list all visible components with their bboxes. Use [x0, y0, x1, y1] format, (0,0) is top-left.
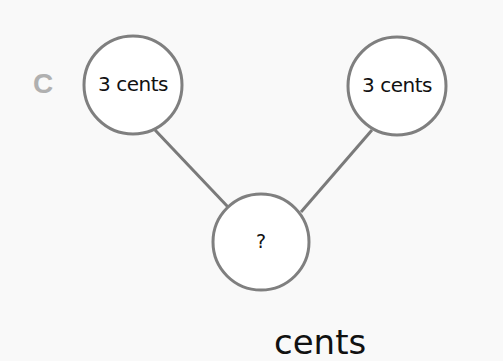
- problem-label: C: [33, 68, 53, 100]
- answer-unit-label: cents: [274, 322, 366, 361]
- node-top-right-text: 3 cents: [347, 73, 447, 97]
- connector-left: [155, 130, 228, 207]
- node-bottom-unknown: ?: [212, 230, 310, 252]
- connector-right: [301, 130, 372, 212]
- node-top-left-text: 3 cents: [83, 72, 183, 96]
- number-bond-diagram: [0, 0, 503, 361]
